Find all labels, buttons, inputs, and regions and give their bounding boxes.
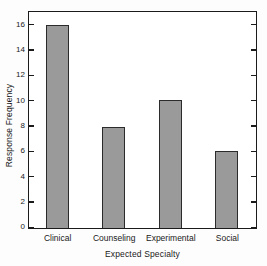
y-tick-label: 0 [21,221,25,233]
y-tick-mark-right [251,227,256,228]
y-tick-mark-right [251,151,256,152]
bar [102,127,125,228]
y-tick-label: 6 [21,145,25,157]
y-tick-mark-right [251,100,256,101]
y-tick-mark-right [251,49,256,50]
y-tick-label: 4 [21,171,25,183]
x-axis-title: Expected Specialty [28,249,257,259]
y-tick-mark-right [251,201,256,202]
y-tick-mark-right [251,24,256,25]
y-tick-label: 12 [16,69,25,81]
bar [46,25,69,228]
bar-chart: Response Frequency 0246810121416 Expecte… [0,0,267,266]
y-tick-mark-right [251,125,256,126]
x-axis-category-label: Counseling [86,232,143,244]
y-axis-title: Response Frequency [2,11,16,240]
y-tick-mark-left [29,125,34,126]
y-tick-mark-left [29,176,34,177]
plot-frame: 0246810121416 [28,11,257,229]
x-axis-category-label: Experimental [143,232,200,244]
y-tick-label: 2 [21,196,25,208]
y-tick-mark-left [29,24,34,25]
bar [215,151,238,228]
x-axis-category-label: Social [199,232,256,244]
y-tick-mark-left [29,100,34,101]
y-tick-label: 10 [16,95,25,107]
y-tick-mark-right [251,75,256,76]
y-tick-label: 8 [21,120,25,132]
y-tick-mark-left [29,227,34,228]
plot-area: 0246810121416 [29,12,256,228]
y-tick-mark-left [29,49,34,50]
y-tick-mark-left [29,75,34,76]
y-tick-mark-right [251,176,256,177]
y-tick-label: 16 [16,19,25,31]
y-tick-mark-left [29,151,34,152]
y-tick-label: 14 [16,44,25,56]
y-tick-mark-left [29,201,34,202]
bar [159,100,182,228]
x-axis-category-label: Clinical [29,232,86,244]
